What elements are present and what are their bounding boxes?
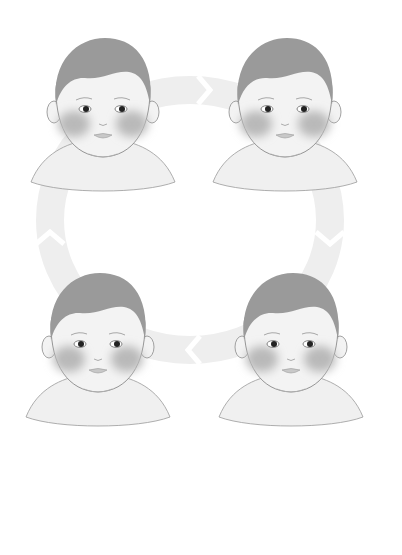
- baby-face-bottom-right: [219, 273, 363, 426]
- baby-face-bottom-left: [26, 273, 170, 426]
- baby-face-top-left: [31, 38, 175, 191]
- illustration-canvas: [0, 0, 402, 555]
- baby-cycle-illustration: [0, 0, 402, 555]
- baby-face-top-right: [213, 38, 357, 191]
